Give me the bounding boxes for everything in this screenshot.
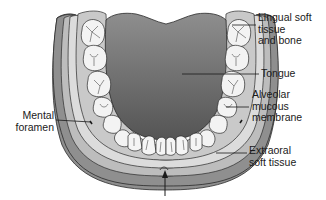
label-tongue: Tongue	[261, 68, 295, 80]
tongue	[105, 13, 226, 140]
label-lingual-soft-tissue: Lingual soft tissue and bone	[258, 12, 312, 47]
label-mental-foramen: Mental foramen	[6, 110, 54, 133]
label-alveolar-mucous-membrane: Alveolar mucous membrane	[252, 89, 302, 124]
label-extraoral-soft-tissue: Extraoral soft tissue	[249, 145, 296, 168]
